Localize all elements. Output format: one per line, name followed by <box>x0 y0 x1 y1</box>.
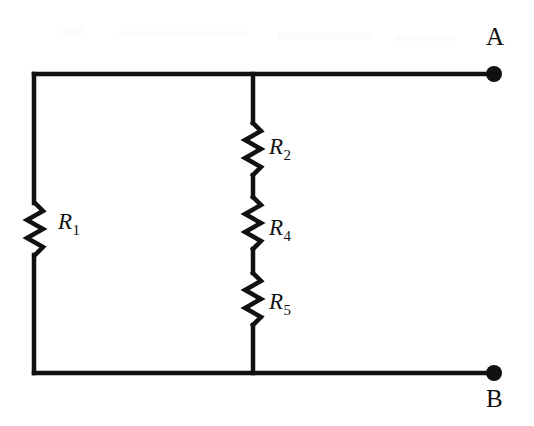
resistor-label-R1-subscript: 1 <box>73 222 81 238</box>
circuit-schematic-svg <box>0 0 534 426</box>
resistor-label-R1-letter: R <box>58 209 72 234</box>
resistor-label-R5-subscript: 5 <box>284 302 292 318</box>
resistor-label-R5: R5 <box>269 290 291 318</box>
terminal-label-b: B <box>486 386 503 411</box>
terminal-dot-b <box>486 365 502 381</box>
resistor-R2-zigzag <box>245 123 261 175</box>
terminal-dot-a <box>486 66 502 82</box>
circuit-diagram-figure: R1 R2 R4 R5 A B <box>0 0 534 426</box>
resistor-R4-zigzag <box>245 197 261 249</box>
resistor-label-R5-letter: R <box>269 289 283 314</box>
resistor-R5-zigzag <box>245 273 261 325</box>
resistor-label-R4: R4 <box>269 216 291 244</box>
resistor-label-R2-subscript: 2 <box>284 147 292 163</box>
resistor-label-R2-letter: R <box>269 134 283 159</box>
resistor-label-R1: R1 <box>58 210 80 238</box>
resistor-label-R4-subscript: 4 <box>284 228 292 244</box>
resistor-R1-zigzag <box>27 203 43 255</box>
terminal-label-a: A <box>486 24 505 49</box>
resistor-label-R4-letter: R <box>269 215 283 240</box>
resistor-label-R2: R2 <box>269 135 291 163</box>
